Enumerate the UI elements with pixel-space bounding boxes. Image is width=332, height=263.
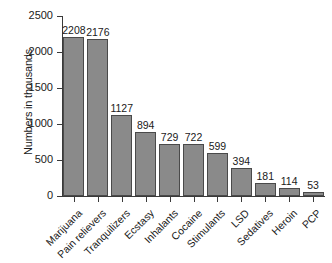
y-axis-tick-mark bbox=[57, 88, 62, 89]
y-axis-tick-mark bbox=[57, 124, 62, 125]
y-axis-tick-label: 0 bbox=[47, 189, 53, 201]
y-axis-tick-label: 1000 bbox=[29, 117, 53, 129]
y-axis-tick-label: 500 bbox=[35, 153, 53, 165]
y-axis-tick: 2000 bbox=[0, 52, 62, 53]
x-axis-tick-mark bbox=[170, 197, 171, 202]
y-axis-tick: 500 bbox=[0, 160, 62, 161]
y-axis-tick-label: 2500 bbox=[29, 9, 53, 21]
bar-value-label: 394 bbox=[221, 155, 261, 167]
x-axis-tick-mark bbox=[241, 197, 242, 202]
bar[interactable] bbox=[159, 144, 180, 196]
bar-value-label: 1127 bbox=[102, 102, 142, 114]
y-axis-tick-label: 1500 bbox=[29, 81, 53, 93]
y-axis-tick-mark bbox=[57, 16, 62, 17]
bar-value-label: 894 bbox=[126, 119, 166, 131]
x-axis-tick-mark bbox=[98, 197, 99, 202]
x-axis-tick-mark bbox=[74, 197, 75, 202]
y-axis-tick-mark bbox=[57, 160, 62, 161]
y-axis-tick-mark bbox=[57, 196, 62, 197]
y-axis-tick-mark bbox=[57, 52, 62, 53]
bar-value-label: 599 bbox=[197, 140, 237, 152]
bar[interactable] bbox=[63, 37, 84, 196]
x-axis-tick-mark bbox=[313, 197, 314, 202]
bar[interactable] bbox=[87, 39, 108, 196]
y-axis-tick: 1000 bbox=[0, 124, 62, 125]
x-axis-tick-mark bbox=[122, 197, 123, 202]
bar[interactable] bbox=[303, 192, 324, 196]
bar-value-label: 2176 bbox=[78, 26, 118, 38]
x-axis-tick-mark bbox=[217, 197, 218, 202]
x-axis-tick-mark bbox=[265, 197, 266, 202]
x-axis-tick-mark bbox=[289, 197, 290, 202]
y-axis-tick-label: 2000 bbox=[29, 45, 53, 57]
x-axis-tick-mark bbox=[146, 197, 147, 202]
y-axis-tick: 2500 bbox=[0, 16, 62, 17]
y-axis-tick: 1500 bbox=[0, 88, 62, 89]
x-axis-tick-mark bbox=[194, 197, 195, 202]
bar-value-label: 53 bbox=[293, 179, 332, 191]
y-axis-tick: 0 bbox=[0, 196, 62, 197]
